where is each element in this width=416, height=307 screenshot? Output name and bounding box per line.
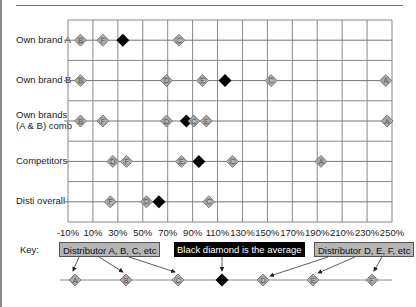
average-marker: [216, 274, 229, 287]
distributor-marker-C: C: [173, 34, 185, 46]
legend-arrow: [129, 257, 175, 272]
distributor-marker-C: C: [188, 115, 200, 127]
svg-text:B: B: [78, 37, 83, 44]
svg-text:C: C: [191, 118, 196, 125]
distributor-marker-A: A: [381, 115, 393, 127]
svg-text:E: E: [311, 277, 316, 284]
svg-text:D: D: [144, 198, 149, 205]
distributor-marker-F: F: [104, 196, 116, 208]
svg-text:F: F: [124, 158, 128, 165]
svg-text:C: C: [176, 37, 181, 44]
distributor-marker-C: C: [172, 274, 184, 286]
svg-text:A: A: [383, 77, 388, 84]
legend-arrow: [374, 257, 382, 271]
svg-text:D: D: [110, 158, 115, 165]
svg-text:E: E: [200, 77, 205, 84]
distributor-marker-A: A: [380, 75, 392, 87]
distributor-marker-F: F: [97, 115, 109, 127]
svg-text:F: F: [370, 277, 374, 284]
distributor-marker-B: B: [74, 115, 86, 127]
svg-text:B: B: [124, 277, 129, 284]
distributor-marker-C: C: [226, 155, 238, 167]
legend-arrow: [99, 257, 123, 272]
average-marker: [192, 155, 205, 168]
svg-text:E: E: [204, 118, 209, 125]
svg-text:C: C: [269, 77, 274, 84]
svg-text:F: F: [101, 118, 105, 125]
svg-text:A: A: [73, 277, 78, 284]
svg-text:C: C: [230, 158, 235, 165]
distributor-marker-B: B: [74, 34, 86, 46]
distributor-marker-D: D: [107, 155, 119, 167]
distributor-marker-D: D: [160, 75, 172, 87]
svg-text:C: C: [175, 277, 180, 284]
distributor-marker-E: E: [307, 274, 319, 286]
svg-text:D: D: [260, 277, 265, 284]
svg-text:D: D: [164, 77, 169, 84]
svg-text:A: A: [319, 158, 324, 165]
legend-arrow: [73, 257, 79, 271]
distributor-marker-E: E: [175, 155, 187, 167]
legend-arrow: [318, 257, 355, 273]
svg-text:C: C: [206, 198, 211, 205]
distributor-marker-D: D: [257, 274, 269, 286]
key-label: Key:: [20, 244, 39, 255]
distributor-marker-E: E: [197, 75, 209, 87]
distributor-marker-C: C: [203, 196, 215, 208]
svg-text:D: D: [164, 118, 169, 125]
legend-arrow: [270, 257, 328, 276]
distributor-marker-F: F: [366, 274, 378, 286]
svg-text:F: F: [101, 37, 105, 44]
distributor-marker-B: B: [74, 75, 86, 87]
svg-text:F: F: [108, 198, 112, 205]
distributor-marker-B: B: [120, 274, 132, 286]
distributor-marker-E: E: [200, 115, 212, 127]
distributor-marker-A: A: [69, 274, 81, 286]
distributor-marker-F: F: [121, 155, 133, 167]
legend-distributor-def: Distributor D, E, F, etc: [314, 242, 414, 257]
distributor-marker-F: F: [97, 34, 109, 46]
legend-average: Black diamond is the average: [174, 242, 305, 257]
distributor-marker-D: D: [160, 115, 172, 127]
average-marker: [152, 195, 165, 208]
svg-text:E: E: [179, 158, 184, 165]
dot-plot: BFCBDECABFDCEADFECAFDCABCDEF: [0, 0, 416, 307]
svg-text:B: B: [78, 118, 83, 125]
svg-text:B: B: [78, 77, 83, 84]
average-marker: [219, 74, 232, 87]
legend-distributor-abc: Distributor A, B, C, etc: [59, 242, 160, 257]
svg-text:A: A: [385, 118, 390, 125]
